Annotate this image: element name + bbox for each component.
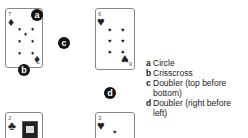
card-rank-bottom: 9 xyxy=(129,61,132,67)
diamond-icon: ♦ xyxy=(18,38,21,44)
diamond-icon: ♦ xyxy=(24,31,27,37)
legend-item-b: b Crisscross xyxy=(146,68,239,78)
badge-b: b xyxy=(18,64,30,76)
legend: a Circle b Crisscross c Doubler (top bef… xyxy=(146,58,239,118)
jack-face-illustration xyxy=(22,121,38,138)
legend-text: Doubler (right before left) xyxy=(153,98,239,118)
legend-key: d xyxy=(146,98,153,118)
legend-item-d: d Doubler (right before left) xyxy=(146,98,239,118)
heart-icon: ♥ xyxy=(97,15,105,28)
badge-c: c xyxy=(58,37,70,49)
legend-key: b xyxy=(146,68,153,78)
heart-icon: ♥ xyxy=(113,129,117,135)
heart-icon: ♥ xyxy=(108,27,112,33)
legend-key: c xyxy=(146,78,153,98)
diamond-icon: ♦ xyxy=(18,50,21,56)
heart-icon: ♥ xyxy=(121,27,125,33)
heart-icon: ♥ xyxy=(97,119,105,132)
heart-icon: ♥ xyxy=(121,38,125,44)
card-six-of-hearts: 6 ♥ ♥ ♥ ♥ ♥ ♥ ♥ ♥ 9 xyxy=(95,8,135,70)
diamond-icon: ♦ xyxy=(8,16,14,28)
heart-icon: ♥ xyxy=(121,53,129,66)
card-three-of-hearts: 3 ♥ ♥ xyxy=(95,112,135,138)
legend-item-c: c Doubler (top before bottom) xyxy=(146,78,239,98)
card-jack-of-clubs: J ♣ xyxy=(5,112,43,138)
heart-icon: ♥ xyxy=(108,38,112,44)
badge-d: d xyxy=(104,87,116,99)
heart-icon: ♥ xyxy=(108,49,112,55)
legend-text: Doubler (top before bottom) xyxy=(153,78,239,98)
club-icon: ♣ xyxy=(8,120,16,132)
badge-a: a xyxy=(31,9,43,21)
diamond-icon: ♦ xyxy=(31,38,34,44)
legend-key: a xyxy=(146,58,153,68)
legend-text: Crisscross xyxy=(153,68,239,78)
card-rank-bottom: L xyxy=(37,59,40,65)
legend-item-a: a Circle xyxy=(146,58,239,68)
legend-text: Circle xyxy=(153,58,239,68)
diamond-icon: ♦ xyxy=(31,26,34,32)
diamond-icon: ♦ xyxy=(18,26,21,32)
